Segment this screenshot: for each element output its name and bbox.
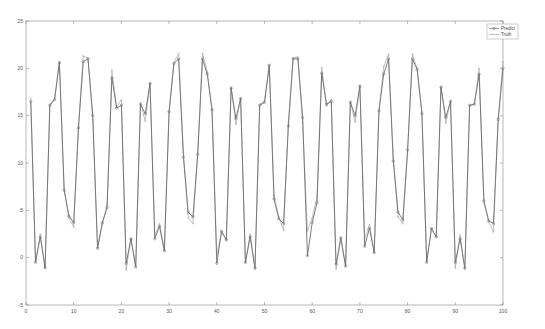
legend-label-truth: Truth: [501, 32, 512, 37]
x-tick-label: 60: [309, 308, 315, 314]
x-tick-label: 100: [499, 308, 508, 314]
x-tick-label: 90: [453, 308, 459, 314]
x-tick-label: 10: [71, 308, 77, 314]
legend-label-predict: Predict: [501, 26, 516, 31]
x-tick-label: 70: [357, 308, 363, 314]
x-tick-label: 0: [25, 308, 28, 314]
y-tick-label: 5: [20, 207, 23, 213]
x-tick-label: 40: [214, 308, 220, 314]
legend: Predict Truth: [487, 24, 518, 39]
x-tick-label: 30: [166, 308, 172, 314]
y-tick-label: 15: [17, 112, 23, 118]
plot-area: [26, 21, 503, 305]
y-tick-label: 25: [17, 18, 23, 24]
x-tick-label: 20: [119, 308, 125, 314]
line-chart: 0102030405060708090100 -50510152025 Pred…: [0, 0, 545, 329]
x-tick-label: 50: [262, 308, 268, 314]
y-tick-label: -5: [19, 302, 24, 308]
y-tick-label: 0: [20, 254, 23, 260]
y-tick-label: 10: [17, 160, 23, 166]
x-tick-label: 80: [405, 308, 411, 314]
y-tick-label: 20: [17, 65, 23, 71]
